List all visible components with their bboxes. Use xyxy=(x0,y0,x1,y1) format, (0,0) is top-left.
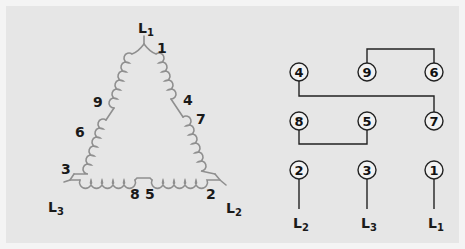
coil-bottom-left xyxy=(80,180,136,188)
wiring-diagram: L1 L3 L2 1 4 7 9 6 3 8 5 2 4 9 6 8 5 xyxy=(0,0,465,249)
terminal-label: 3 xyxy=(362,163,371,178)
winding-label-5: 5 xyxy=(145,186,155,202)
winding-label-7: 7 xyxy=(196,111,206,127)
terminal-label: 9 xyxy=(362,65,371,80)
winding-label-1: 1 xyxy=(157,40,167,56)
terminal-label: 1 xyxy=(429,163,438,178)
terminal-label: 4 xyxy=(294,65,303,80)
terminal-label: 2 xyxy=(294,163,303,178)
terminal-label: 6 xyxy=(429,65,438,80)
coil-left-upper xyxy=(109,44,144,108)
terminal-label: 7 xyxy=(429,114,438,129)
vertex-label-l2: L2 xyxy=(226,200,242,218)
winding-label-9: 9 xyxy=(93,94,103,110)
winding-label-4: 4 xyxy=(183,92,193,108)
line-label-l3: L3 xyxy=(361,215,377,233)
vertex-label-l1: L1 xyxy=(138,20,154,38)
terminal-label: 8 xyxy=(294,114,303,129)
line-label-l1: L1 xyxy=(428,215,444,233)
terminal-label: 5 xyxy=(362,114,371,129)
winding-label-3: 3 xyxy=(61,161,71,177)
winding-label-8: 8 xyxy=(130,186,140,202)
line-label-l2: L2 xyxy=(293,215,309,233)
winding-label-6: 6 xyxy=(75,124,85,140)
vertex-label-l3: L3 xyxy=(48,199,64,217)
winding-label-2: 2 xyxy=(206,186,216,202)
